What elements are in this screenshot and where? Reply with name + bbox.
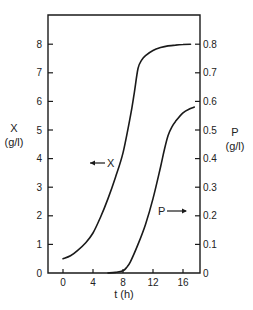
y-right-tick-label: 0 xyxy=(203,268,209,279)
y-left-tick-label: 7 xyxy=(36,67,42,78)
y-left-tick-label: 1 xyxy=(36,239,42,250)
y-right-tick-label: 0.7 xyxy=(203,67,217,78)
y-right-axis-ticks: 00.10.20.30.40.50.60.70.8 xyxy=(195,39,217,279)
y-left-axis-unit: (g/l) xyxy=(5,136,24,148)
x-axis-title: t (h) xyxy=(114,288,134,300)
annotation-x-label: X xyxy=(107,157,115,169)
arrowhead-right-icon xyxy=(182,209,187,214)
y-right-axis-unit: (g/l) xyxy=(226,140,245,152)
y-left-tick-label: 5 xyxy=(36,125,42,136)
x-axis-ticks: 0481216 xyxy=(60,269,189,288)
x-tick-label: 0 xyxy=(60,277,66,288)
y-left-tick-label: 8 xyxy=(36,39,42,50)
y-right-tick-label: 0.2 xyxy=(203,210,217,221)
y-left-tick-label: 4 xyxy=(36,153,42,164)
x-tick-label: 8 xyxy=(120,277,126,288)
y-left-tick-label: 2 xyxy=(36,210,42,221)
series-x-biomass-curve xyxy=(63,44,191,259)
plot-frame xyxy=(48,15,200,273)
y-left-tick-label: 3 xyxy=(36,182,42,193)
y-left-tick-label: 0 xyxy=(36,268,42,279)
annotation-p-label: P xyxy=(158,205,165,217)
annotation-x: X xyxy=(90,157,115,169)
y-left-axis-ticks: 012345678 xyxy=(36,39,53,279)
y-right-tick-label: 0.1 xyxy=(203,239,217,250)
y-left-tick-label: 6 xyxy=(36,96,42,107)
x-tick-label: 4 xyxy=(90,277,96,288)
x-tick-label: 12 xyxy=(147,277,159,288)
y-right-tick-label: 0.3 xyxy=(203,182,217,193)
y-right-tick-label: 0.8 xyxy=(203,39,217,50)
y-right-axis-title: P xyxy=(231,126,238,138)
y-right-tick-label: 0.6 xyxy=(203,96,217,107)
annotation-p: P xyxy=(158,205,187,217)
y-left-axis-title: X xyxy=(10,122,18,134)
x-tick-label: 16 xyxy=(177,277,189,288)
y-right-tick-label: 0.5 xyxy=(203,125,217,136)
fermentation-chart: 0481216 012345678 00.10.20.30.40.50.60.7… xyxy=(0,0,253,310)
arrowhead-left-icon xyxy=(90,161,95,166)
series-p-product-curve xyxy=(108,107,194,273)
y-right-tick-label: 0.4 xyxy=(203,153,217,164)
